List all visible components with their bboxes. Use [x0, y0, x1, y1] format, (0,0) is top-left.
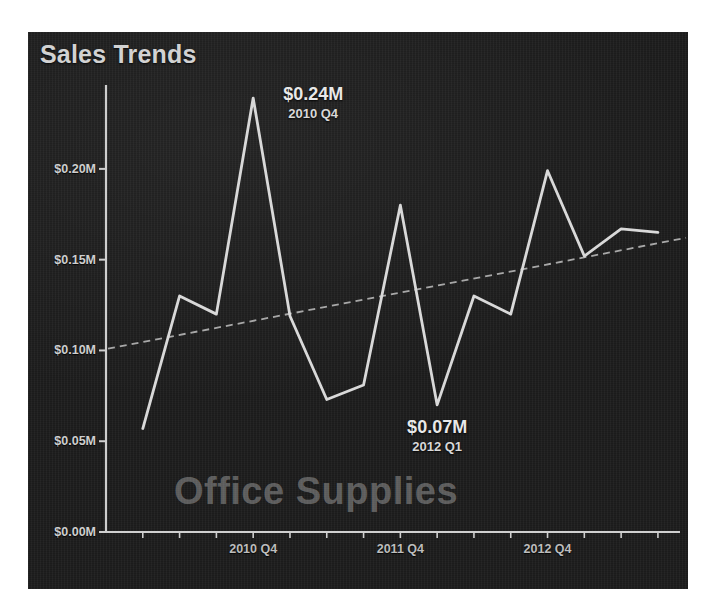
annotation-value: $0.07M [407, 417, 467, 438]
chart-panel: Sales Trends Office Supplies $0.00M$0.05… [28, 32, 688, 589]
annotation-value: $0.24M [283, 84, 343, 105]
y-axis-tick-label: $0.05M [28, 434, 96, 448]
x-axis-tick-label: 2010 Q4 [229, 542, 277, 556]
y-axis-tick-label: $0.10M [28, 343, 96, 357]
annotation-period: 2012 Q1 [407, 439, 467, 454]
y-axis-tick-label: $0.20M [28, 162, 96, 176]
data-point-annotation: $0.07M2012 Q1 [407, 417, 467, 454]
sales-line-series [143, 98, 658, 428]
y-axis-tick-label: $0.15M [28, 253, 96, 267]
chart-plot-area [28, 32, 688, 589]
axis-group [99, 85, 680, 538]
annotation-period: 2010 Q4 [283, 106, 343, 121]
screenshot-root: Sales Trends Office Supplies $0.00M$0.05… [0, 0, 710, 613]
trend-line-series [108, 238, 686, 349]
y-axis-tick-label: $0.00M [28, 525, 96, 539]
x-axis-tick-label: 2011 Q4 [377, 542, 424, 556]
data-point-annotation: $0.24M2010 Q4 [283, 84, 343, 121]
x-axis-tick-label: 2012 Q4 [524, 542, 572, 556]
